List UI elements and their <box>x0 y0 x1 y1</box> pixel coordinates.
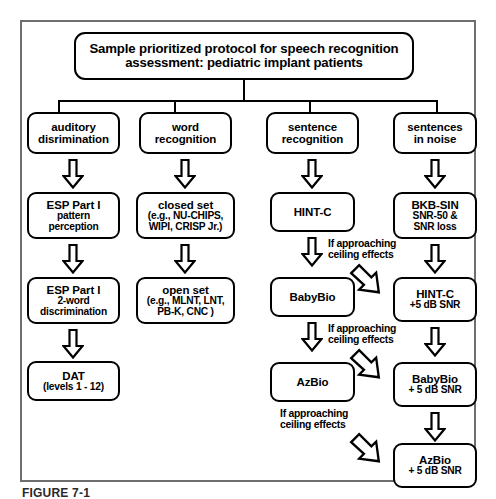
column-1-node-3-line-1: DAT <box>62 370 84 382</box>
column-3-header: sentence recognition <box>266 112 359 154</box>
column-4-header: sentences in noise <box>393 112 477 154</box>
column-2-node-2-line-2: (e.g., MLNT, LNT, <box>147 296 225 307</box>
column-2-node-1-line-1: closed set <box>158 199 213 211</box>
column-1-node-1-line-1: ESP Part I <box>47 199 101 211</box>
column-2-node-2-line-1: open set <box>162 284 209 296</box>
note-2-line-1: If approaching <box>328 323 396 334</box>
title-line-2: assessment: pediatric implant patients <box>125 56 363 70</box>
column-4-header-line-1: sentences <box>407 121 462 133</box>
column-2-header: word recognition <box>139 112 232 154</box>
column-4-node-2-line-2: +5 dB SNR <box>410 300 461 311</box>
arrow-down-col4-3 <box>424 327 446 357</box>
column-1-node-1-line-3: perception <box>48 222 98 233</box>
column-4-header-line-2: in noise <box>414 133 457 145</box>
flowchart-title-box: Sample prioritized protocol for speech r… <box>74 32 414 80</box>
figure-frame: Sample prioritized protocol for speech r… <box>20 20 476 482</box>
column-4-node-4: AzBio + 5 dB SNR <box>393 443 477 488</box>
figure-caption: FIGURE 7-1 <box>22 486 90 499</box>
column-1-node-1: ESP Part I pattern perception <box>27 192 120 239</box>
column-1-header: auditory disrimination <box>27 112 120 154</box>
arrow-down-col1-2 <box>62 244 84 274</box>
column-3-node-1-line-1: HINT-C <box>294 206 332 218</box>
arrow-down-col4-4 <box>424 412 446 442</box>
column-4-node-1-line-2: SNR-50 & <box>413 211 458 222</box>
arrow-down-col3-2 <box>301 237 323 267</box>
arrow-down-col4-1 <box>424 159 446 189</box>
column-4-node-1-line-1: BKB-SIN <box>411 199 458 211</box>
column-4-node-4-line-2: + 5 dB SNR <box>408 466 461 477</box>
connector-title-stem <box>243 80 245 100</box>
column-4-node-1: BKB-SIN SNR-50 & SNR loss <box>393 192 477 239</box>
note-3: If approaching ceiling effects <box>280 408 348 431</box>
column-1-header-line-1: auditory <box>51 121 96 133</box>
arrow-diagonal-3 <box>348 431 382 465</box>
note-2-line-2: ceiling effects <box>328 334 396 345</box>
column-2-node-2: open set (e.g., MLNT, LNT, PB-K, CNC ) <box>136 277 235 324</box>
arrow-down-col2-1 <box>174 159 196 189</box>
column-4-node-1-line-3: SNR loss <box>413 222 456 233</box>
arrow-down-col1-3 <box>62 329 84 359</box>
column-3-node-3-line-1: AzBio <box>296 376 328 388</box>
column-2-node-2-line-3: PB-K, CNC ) <box>157 307 214 318</box>
column-3-node-2-line-1: BabyBio <box>290 291 336 303</box>
column-4-node-3-line-2: + 5 dB SNR <box>408 385 461 396</box>
column-2-header-line-2: recognition <box>155 133 217 145</box>
connector-drop-col2 <box>174 100 176 112</box>
note-1-line-1: If approaching <box>328 238 396 249</box>
arrow-down-col3-1 <box>301 159 323 189</box>
connector-drop-col4 <box>436 100 438 112</box>
column-2-header-line-1: word <box>172 121 199 133</box>
column-3-node-1: HINT-C <box>270 192 355 232</box>
column-1-header-line-2: disrimination <box>38 133 109 145</box>
column-4-node-2: HINT-C +5 dB SNR <box>393 277 477 322</box>
column-1-node-3-line-2: (levels 1 - 12) <box>43 382 104 393</box>
note-2: If approaching ceiling effects <box>328 323 396 346</box>
column-3-header-line-1: sentence <box>288 121 337 133</box>
column-2-node-1: closed set (e.g., NU-CHIPS, WIPI, CRISP … <box>136 192 235 239</box>
column-3-node-3: AzBio <box>270 362 355 402</box>
arrow-down-col3-3 <box>301 322 323 352</box>
note-1-line-2: ceiling effects <box>328 249 396 260</box>
column-3-header-line-2: recognition <box>282 133 344 145</box>
connector-bus-horizontal <box>58 100 438 102</box>
column-1-node-3: DAT (levels 1 - 12) <box>27 361 120 401</box>
connector-drop-col1 <box>58 100 60 112</box>
arrow-down-col2-2 <box>174 244 196 274</box>
connector-drop-col3 <box>309 100 311 112</box>
column-4-node-3: BabyBio + 5 dB SNR <box>393 362 477 407</box>
column-1-node-2-line-2: 2-word <box>57 296 89 307</box>
column-1-node-2: ESP Part I 2-word discrimination <box>27 277 120 324</box>
column-2-node-1-line-2: (e.g., NU-CHIPS, <box>148 211 223 222</box>
column-1-node-2-line-1: ESP Part I <box>47 284 101 296</box>
column-3-node-2: BabyBio <box>270 277 355 317</box>
note-3-line-1: If approaching <box>280 408 348 419</box>
column-2-node-1-line-3: WIPI, CRISP Jr.) <box>149 222 223 233</box>
column-1-node-2-line-3: discrimination <box>40 307 107 318</box>
arrow-down-col4-2 <box>424 244 446 274</box>
note-1: If approaching ceiling effects <box>328 238 396 261</box>
column-1-node-1-line-2: pattern <box>57 211 90 222</box>
title-line-1: Sample prioritized protocol for speech r… <box>89 42 398 56</box>
arrow-down-col1-1 <box>62 159 84 189</box>
note-3-line-2: ceiling effects <box>280 419 348 430</box>
